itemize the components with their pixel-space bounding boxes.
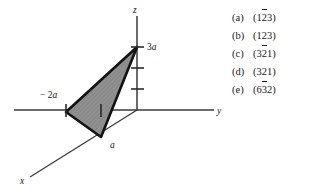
- figure-panel: z y x 3a − 2a a: [0, 0, 228, 196]
- choice-row[interactable]: (a) (123): [228, 9, 309, 27]
- paren-close: ): [272, 12, 276, 23]
- y-intercept-number: − 2: [40, 90, 53, 100]
- choice-value: (321): [253, 63, 276, 81]
- miller-digit-2: 2: [262, 45, 267, 63]
- miller-digit-2: 3: [262, 81, 267, 99]
- x-intercept-label: a: [110, 140, 115, 150]
- y-intercept-label: − 2a: [40, 90, 57, 100]
- choice-row[interactable]: (d) (321): [228, 63, 309, 81]
- paren-close: ): [272, 30, 276, 41]
- z-intercept-unit: a: [152, 42, 157, 52]
- choice-key: (a): [232, 9, 253, 27]
- choice-row[interactable]: (b) (123): [228, 27, 309, 45]
- choice-value: (632): [253, 81, 276, 99]
- z-intercept-label: 3a: [147, 42, 157, 52]
- choice-row[interactable]: (c) (321): [228, 45, 309, 63]
- crystal-plane-figure: z y x 3a − 2a a: [0, 0, 228, 196]
- x-axis-label: x: [19, 176, 25, 186]
- z-axis-label: z: [132, 5, 137, 15]
- crystal-plane-triangle: [66, 47, 137, 137]
- choice-row[interactable]: (e) (632): [228, 81, 309, 99]
- y-intercept-unit: a: [52, 90, 57, 100]
- x-intercept-unit: a: [110, 140, 115, 150]
- choice-key: (d): [232, 63, 253, 81]
- paren-close: ): [272, 48, 276, 59]
- choice-value: (123): [253, 27, 276, 45]
- choice-value: (321): [253, 45, 276, 63]
- paren-close: ): [272, 66, 276, 77]
- choice-value: (123): [253, 9, 276, 27]
- miller-digit-2: 2: [262, 9, 267, 27]
- choice-key: (e): [232, 81, 253, 99]
- choice-key: (b): [232, 27, 253, 45]
- choice-key: (c): [232, 45, 253, 63]
- y-axis-label: y: [216, 106, 222, 116]
- answer-choices-list: (a) (123) (b) (123) (c) (321) (d) (321) …: [228, 0, 309, 196]
- paren-close: ): [272, 84, 276, 95]
